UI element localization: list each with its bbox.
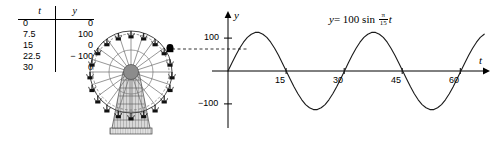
y-axis-arrowhead: [225, 11, 232, 18]
x-tick-label-60: 60: [449, 76, 459, 85]
equation-amplitude: 100: [343, 13, 360, 25]
x-axis-arrowhead: [483, 68, 490, 75]
y-tick-label-neg100: −100: [198, 99, 218, 108]
x-tick-label-30: 30: [333, 76, 343, 85]
equation-variable: t: [389, 13, 392, 25]
equation-equals: =: [334, 13, 340, 25]
tower-base-plate: [110, 128, 152, 134]
diagram-canvas: [0, 0, 495, 141]
ferris-wheel: [87, 31, 176, 134]
y-tick-label-100: 100: [204, 33, 219, 42]
highlight-car: [167, 44, 174, 52]
equation-function: sin: [362, 13, 375, 25]
fraction-denominator: 15: [379, 20, 388, 27]
x-tick-label-15: 15: [275, 76, 285, 85]
equation-label: y= 100 sin π15t: [329, 12, 392, 28]
equation-fraction: π15: [379, 12, 388, 28]
figure-root: t y 0 0 7.5 100 15 0 22.5: [0, 0, 495, 141]
wheel-hub: [124, 65, 139, 80]
x-axis-label: t: [479, 55, 482, 66]
y-axis-label: y: [234, 10, 239, 21]
x-tick-label-45: 45: [391, 76, 401, 85]
graph-axes: [212, 11, 490, 128]
